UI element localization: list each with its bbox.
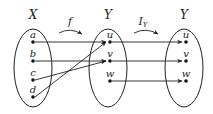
element-point-x-a	[31, 40, 35, 44]
function-identity-label: IY	[138, 15, 149, 29]
function-f-label: f	[67, 15, 74, 28]
set-y2-label: Y	[180, 8, 189, 22]
element-label-x-a: a	[30, 29, 36, 40]
function-f-curved-arrow	[59, 30, 82, 34]
function-composition-diagram: X Y Y f IY abcduvwuvw	[0, 0, 213, 114]
element-label-y2-u: u	[183, 29, 189, 40]
element-point-y1-v	[108, 59, 112, 63]
element-label-y1-v: v	[107, 48, 113, 59]
element-point-y2-w	[184, 79, 188, 83]
element-label-x-d: d	[30, 84, 36, 95]
set-x-label: X	[28, 8, 38, 22]
element-label-x-c: c	[30, 67, 36, 78]
element-point-x-c	[31, 78, 35, 82]
function-identity-curved-arrow	[134, 30, 158, 34]
element-point-y2-v	[184, 59, 188, 63]
element-point-y1-w	[108, 79, 112, 83]
mapping-arrow-c-to-v-f	[35, 61, 106, 80]
element-point-y2-u	[184, 40, 188, 44]
element-point-x-b	[31, 59, 35, 63]
element-label-y2-w: w	[182, 68, 191, 79]
element-point-x-d	[31, 95, 35, 99]
function-identity-subscript: Y	[143, 21, 149, 29]
element-label-y1-u: u	[107, 29, 113, 40]
mapping-arrow-d-to-u-f	[35, 42, 106, 97]
set-y1-label: Y	[104, 8, 113, 22]
element-label-x-b: b	[30, 48, 36, 59]
element-point-y1-u	[108, 40, 112, 44]
element-label-y2-v: v	[183, 48, 189, 59]
element-label-y1-w: w	[106, 68, 115, 79]
